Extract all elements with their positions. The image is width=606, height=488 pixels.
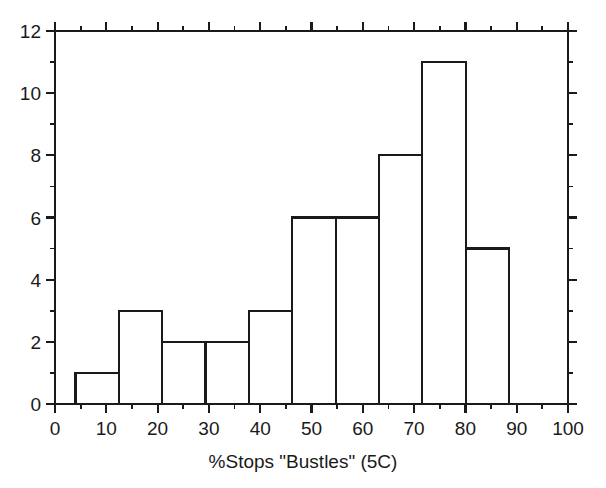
histogram-figure: 0102030405060708090100 024681012 %Stops …: [0, 0, 606, 488]
x-tick-label: 70: [404, 418, 425, 439]
histogram-plot: 0102030405060708090100 024681012 %Stops …: [0, 0, 606, 488]
figure-background: [0, 0, 606, 488]
y-tick-label: 8: [30, 145, 41, 166]
x-tick-label: 60: [352, 418, 373, 439]
x-tick-label: 30: [198, 418, 219, 439]
y-tick-label: 2: [30, 332, 41, 353]
x-tick-label: 50: [301, 418, 322, 439]
x-tick-label: 40: [250, 418, 271, 439]
x-tick-label: 90: [506, 418, 527, 439]
x-tick-label: 80: [455, 418, 476, 439]
x-axis-title: %Stops "Bustles" (5C): [209, 451, 398, 472]
y-tick-label: 4: [30, 270, 41, 291]
y-tick-label: 10: [20, 83, 41, 104]
x-tick-label: 10: [96, 418, 117, 439]
x-tick-label: 20: [147, 418, 168, 439]
y-tick-label: 12: [20, 21, 41, 42]
y-tick-label: 0: [30, 394, 41, 415]
x-tick-label: 0: [50, 418, 61, 439]
x-tick-label: 100: [552, 418, 584, 439]
y-tick-label: 6: [30, 208, 41, 229]
